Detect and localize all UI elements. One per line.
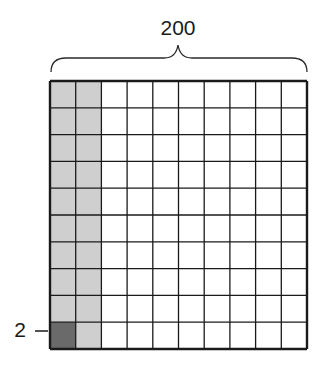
grid-cell — [179, 108, 205, 135]
grid-cell — [256, 322, 282, 349]
grid-cell — [127, 161, 153, 188]
grid-cell — [256, 188, 282, 215]
grid-cell — [127, 135, 153, 162]
grid-cell — [101, 269, 127, 296]
grid-cell — [179, 81, 205, 108]
grid-cell — [230, 81, 256, 108]
grid-cell — [50, 322, 76, 349]
grid-cell — [281, 215, 307, 242]
grid-cell — [101, 81, 127, 108]
grid-cell — [179, 242, 205, 269]
grid-cell — [230, 161, 256, 188]
grid-cell — [153, 322, 179, 349]
grid-cell — [76, 322, 102, 349]
grid-cell — [230, 135, 256, 162]
grid-cell — [76, 161, 102, 188]
grid-cell — [50, 108, 76, 135]
grid-cell — [127, 188, 153, 215]
grid-cell — [101, 295, 127, 322]
grid-cell — [50, 81, 76, 108]
grid-cell — [179, 215, 205, 242]
grid-cell — [256, 81, 282, 108]
side-dimension-label: 2 — [12, 318, 28, 342]
grid-cell — [281, 322, 307, 349]
grid-cell — [127, 322, 153, 349]
grid-cell — [179, 161, 205, 188]
grid-cell — [153, 161, 179, 188]
top-dimension-label: 200 — [150, 16, 206, 40]
grid-cell — [50, 135, 76, 162]
grid-cell — [281, 295, 307, 322]
grid-cell — [101, 108, 127, 135]
grid-cell — [50, 215, 76, 242]
grid-cell — [256, 161, 282, 188]
grid-cell — [281, 242, 307, 269]
grid-cell — [76, 295, 102, 322]
grid-cell — [204, 108, 230, 135]
grid-cell — [76, 81, 102, 108]
grid-cell — [204, 161, 230, 188]
grid-cell — [101, 188, 127, 215]
grid-cell — [179, 188, 205, 215]
grid-cell — [127, 215, 153, 242]
grid-cell — [204, 322, 230, 349]
grid-figure — [0, 0, 323, 377]
grid-cell — [281, 188, 307, 215]
grid-cell — [204, 135, 230, 162]
grid-cell — [230, 188, 256, 215]
grid-cell — [204, 188, 230, 215]
grid-cell — [281, 135, 307, 162]
grid-cell — [179, 269, 205, 296]
grid-cell — [256, 108, 282, 135]
grid-cell — [153, 269, 179, 296]
grid-cell — [179, 322, 205, 349]
grid-cell — [76, 188, 102, 215]
grid-cell — [50, 242, 76, 269]
grid-cell — [256, 295, 282, 322]
grid-cell — [256, 135, 282, 162]
grid-cell — [50, 188, 76, 215]
grid-cell — [101, 242, 127, 269]
grid-cell — [281, 269, 307, 296]
grid-cell — [153, 108, 179, 135]
grid-cell — [127, 295, 153, 322]
grid-cell — [179, 135, 205, 162]
top-brace — [51, 45, 307, 72]
grid-cell — [127, 242, 153, 269]
grid-cell — [204, 81, 230, 108]
grid-cell — [230, 269, 256, 296]
grid-cell — [230, 215, 256, 242]
grid-cell — [101, 215, 127, 242]
grid-cell — [76, 215, 102, 242]
grid-cell — [127, 81, 153, 108]
grid-cell — [153, 295, 179, 322]
grid-cell — [101, 135, 127, 162]
grid-cell — [204, 215, 230, 242]
grid-cell — [101, 161, 127, 188]
grid-cell — [76, 269, 102, 296]
grid-cell — [230, 242, 256, 269]
grid-cell — [204, 242, 230, 269]
grid-cell — [179, 295, 205, 322]
grid-cell — [204, 269, 230, 296]
grid-cell — [204, 295, 230, 322]
grid-cell — [50, 295, 76, 322]
grid-cell — [230, 108, 256, 135]
grid-cell — [127, 269, 153, 296]
grid-cell — [153, 81, 179, 108]
grid-cell — [230, 322, 256, 349]
grid-cell — [101, 322, 127, 349]
grid-cell — [256, 215, 282, 242]
hundred-grid-diagram: 200 2 — [0, 0, 323, 377]
grid-cell — [256, 269, 282, 296]
grid-cell — [281, 81, 307, 108]
grid-cell — [281, 108, 307, 135]
grid-cell — [256, 242, 282, 269]
grid-cell — [230, 295, 256, 322]
grid-cell — [50, 161, 76, 188]
grid-cell — [127, 108, 153, 135]
grid-cell — [76, 135, 102, 162]
grid-cell — [153, 135, 179, 162]
grid-cell — [76, 108, 102, 135]
grid-cell — [281, 161, 307, 188]
